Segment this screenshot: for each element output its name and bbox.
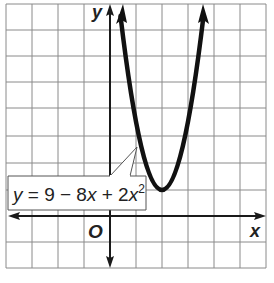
x-axis — [8, 212, 266, 220]
origin-label: O — [88, 221, 103, 242]
x-axis-label: x — [249, 221, 261, 241]
equation-label: y = 9 − 8x + 2x2 — [11, 182, 145, 205]
parabola-graph: y = 9 − 8x + 2x2 y x O — [0, 0, 274, 283]
grid — [6, 4, 266, 268]
y-axis-label: y — [91, 2, 103, 22]
